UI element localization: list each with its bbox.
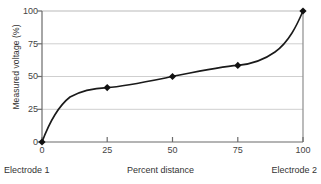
chart-figure: Measured voltage (%) 100 75 50 25 0 [0,0,321,184]
gridlines [42,11,303,109]
x-tick-label-0: 0 [22,146,62,155]
x-tick-marks [42,137,303,142]
x-tick-label-75: 75 [218,146,258,155]
y-tick-marks [37,11,42,142]
plot-area [0,0,321,184]
data-point-2 [169,73,176,80]
caption-electrode-2: Electrode 2 [271,166,317,175]
data-point-1 [104,84,111,91]
data-point-3 [234,62,241,69]
data-point-4 [299,7,306,14]
x-tick-label-50: 50 [153,146,193,155]
x-tick-label-25: 25 [87,146,127,155]
x-tick-label-100: 100 [283,146,321,155]
